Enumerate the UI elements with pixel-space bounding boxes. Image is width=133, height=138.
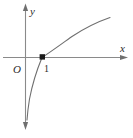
x-tick-label-one: 1: [44, 63, 49, 74]
log-curve-upper-branch: [42, 18, 110, 58]
y-axis-down-arrow-icon: [23, 122, 28, 130]
y-axis-label: y: [29, 5, 35, 17]
math-figure-log-curve: y x O 1: [0, 0, 133, 138]
point-marker-one-zero: [40, 54, 45, 59]
y-axis-up-arrow-icon: [23, 4, 28, 12]
log-curve-lower-branch: [27, 58, 42, 121]
x-axis-right-arrow-icon: [120, 55, 128, 60]
origin-label: O: [13, 63, 21, 75]
x-axis-label: x: [119, 42, 125, 54]
coordinate-plot-svg: y x O 1: [0, 0, 133, 138]
